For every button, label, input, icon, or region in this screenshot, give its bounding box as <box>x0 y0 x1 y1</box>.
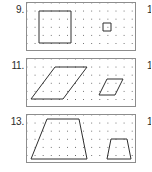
large-parallelogram-shape <box>31 67 87 99</box>
large-trapezoid-shape <box>31 119 87 159</box>
problem-number-11: 11. <box>3 60 24 72</box>
problem-number-13: 13. <box>3 116 24 128</box>
problem-row-11: 11. 1 <box>0 58 152 110</box>
worksheet-exercise-strip: 9. 1 11. 1 13. <box>0 0 152 172</box>
figure-group-11 <box>27 59 135 106</box>
problem-row-13: 13. 1 <box>0 114 152 166</box>
small-parallelogram-shape <box>99 79 123 95</box>
figure-group-9 <box>27 3 135 50</box>
small-trapezoid-shape <box>107 139 131 159</box>
dot-grid-panel-13 <box>26 114 136 163</box>
dot-grid-panel-11 <box>26 58 136 107</box>
dot-grid-panel-9 <box>26 2 136 51</box>
right-margin-number-13: 1 <box>147 116 151 128</box>
right-margin-number-9: 1 <box>147 4 151 16</box>
small-square-shape <box>103 23 111 31</box>
figure-group-13 <box>27 115 135 162</box>
problem-number-9: 9. <box>3 4 24 16</box>
large-square-shape <box>39 11 71 43</box>
problem-row-9: 9. 1 <box>0 2 152 54</box>
right-margin-number-11: 1 <box>147 60 151 72</box>
